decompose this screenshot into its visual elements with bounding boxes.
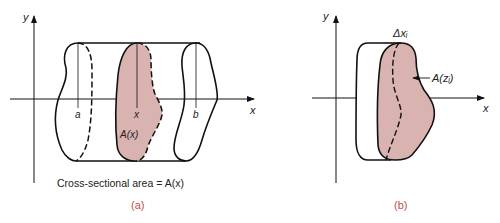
y-axis-label: y <box>22 11 30 23</box>
label-x: x <box>133 109 140 120</box>
delta-x-label: Δxᵢ <box>392 27 408 39</box>
panel-a: y x a x b A(x) Cross-sectional area = A(… <box>10 11 256 211</box>
x-axis-label: x <box>249 104 256 116</box>
cross-section-x-fill <box>116 43 162 161</box>
y-axis-label-b: y <box>322 10 330 22</box>
cross-section-a <box>55 43 78 161</box>
x-axis-label-b: x <box>482 102 489 114</box>
caption: Cross-sectional area = A(x) <box>57 177 184 189</box>
label-a: a <box>75 109 81 120</box>
area-label: A(x) <box>119 129 138 140</box>
figure: y x a x b A(x) Cross-sectional area = A(… <box>0 0 500 223</box>
slab-front-fill <box>377 43 434 160</box>
panel-label-a: (a) <box>131 199 144 211</box>
panel-b: y x Δxᵢ A(zᵢ) (b) <box>312 10 489 211</box>
panel-label-b: (b) <box>394 199 407 211</box>
label-b: b <box>193 109 199 120</box>
area-zi-label: A(zᵢ) <box>431 72 454 84</box>
